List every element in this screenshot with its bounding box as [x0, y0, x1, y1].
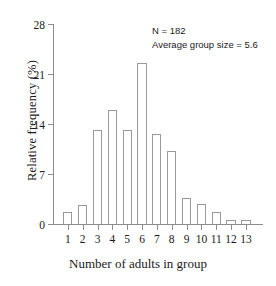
- histogram-bar: [152, 134, 161, 224]
- y-axis-tick: 21: [48, 74, 53, 75]
- y-axis-tick-label: 21: [34, 69, 46, 81]
- x-axis-tick-label: 8: [169, 233, 175, 245]
- chart-annotations: N = 182 Average group size = 5.6: [152, 24, 258, 52]
- y-axis-tick: 14: [48, 124, 53, 125]
- x-axis-tick-label: 13: [240, 233, 252, 245]
- annotation-average-group-size: Average group size = 5.6: [152, 38, 258, 52]
- x-axis-tick-label: 7: [154, 233, 160, 245]
- x-axis-tick-label: 10: [196, 233, 208, 245]
- histogram-bar: [123, 130, 132, 224]
- y-axis-tick-label: 14: [34, 119, 46, 131]
- y-axis-tick-label: 7: [39, 169, 45, 181]
- y-axis-tick-label: 28: [34, 19, 46, 31]
- x-axis-tick-label: 3: [95, 233, 101, 245]
- histogram-bar: [63, 212, 72, 224]
- x-axis-tick: [127, 225, 128, 230]
- x-axis-tick-label: 6: [139, 233, 145, 245]
- histogram-bar: [212, 212, 221, 224]
- x-axis-tick-label: 2: [80, 233, 86, 245]
- y-axis-tick: 7: [48, 174, 53, 175]
- x-axis-tick-label: 12: [225, 233, 237, 245]
- histogram-bar: [137, 63, 146, 224]
- x-axis-tick-label: 5: [124, 233, 130, 245]
- x-axis-tick: [246, 225, 247, 230]
- x-axis-tick-label: 11: [211, 233, 222, 245]
- y-axis-tick: 0: [48, 224, 53, 225]
- y-axis-tick-label: 0: [39, 219, 45, 231]
- y-axis-line: [53, 24, 54, 224]
- plot-area: 0714212812345678910111213: [53, 24, 263, 224]
- x-axis-tick: [68, 225, 69, 230]
- x-axis-tick-label: 4: [109, 233, 115, 245]
- x-axis-tick-label: 1: [65, 233, 71, 245]
- histogram-bar: [182, 198, 191, 224]
- x-axis-tick: [112, 225, 113, 230]
- x-axis-tick: [142, 225, 143, 230]
- y-axis-tick: 28: [48, 24, 53, 25]
- x-axis-tick: [157, 225, 158, 230]
- x-axis-tick: [172, 225, 173, 230]
- annotation-sample-size: N = 182: [152, 24, 258, 38]
- histogram-bar: [108, 110, 117, 224]
- x-axis-tick: [231, 225, 232, 230]
- x-axis-tick: [83, 225, 84, 230]
- histogram-bar: [197, 204, 206, 224]
- histogram-figure: Relative frequency (%) 07142128123456789…: [0, 0, 276, 286]
- histogram-bar: [241, 220, 250, 224]
- x-axis-title: Number of adults in group: [0, 256, 276, 272]
- histogram-bar: [78, 205, 87, 224]
- x-axis-tick: [216, 225, 217, 230]
- histogram-bar: [93, 130, 102, 224]
- histogram-bar: [226, 220, 235, 224]
- x-axis-tick: [98, 225, 99, 230]
- x-axis-tick-label: 9: [184, 233, 190, 245]
- x-axis-tick: [201, 225, 202, 230]
- x-axis-tick: [187, 225, 188, 230]
- histogram-bar: [167, 151, 176, 224]
